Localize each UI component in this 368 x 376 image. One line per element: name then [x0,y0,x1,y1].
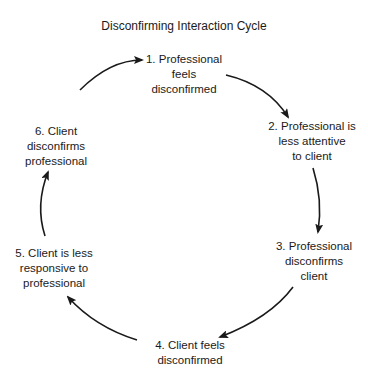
arrow-5-to-6 [41,172,48,236]
node-3: 3. Professional disconfirms client [266,239,362,284]
arrow-2-to-3 [313,168,320,232]
arrow-3-to-4 [220,287,293,337]
node-2: 2. Professional is less attentive to cli… [258,119,366,164]
node-4: 4. Client feels disconfirmed [142,338,238,368]
node-5: 5. Client is less responsive to professi… [6,246,102,291]
node-6: 6. Client disconfirms professional [14,124,98,169]
node-1: 1. Professional feels disconfirmed [134,52,234,97]
arrow-6-to-1 [80,60,142,90]
arrow-1-to-2 [226,75,288,117]
arrow-4-to-5 [68,297,137,340]
